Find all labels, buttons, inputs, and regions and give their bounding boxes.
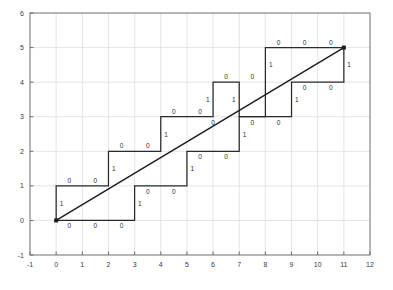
step-label: 1	[60, 200, 64, 207]
chart-plot: 1001001001010000100100010010011000 -1012…	[0, 0, 393, 290]
y-tick-label: -1	[18, 252, 24, 259]
y-tick-label: 4	[20, 79, 24, 86]
step-label: 1	[190, 165, 194, 172]
step-label: 0	[94, 222, 98, 229]
step-label: 0	[94, 177, 98, 184]
step-label: 0	[303, 39, 307, 46]
x-tick-label: 2	[107, 261, 111, 268]
y-tick-label: 3	[20, 113, 24, 120]
step-label: 0	[277, 119, 281, 126]
step-label: 0	[67, 177, 71, 184]
y-tick-label: 5	[20, 44, 24, 51]
x-tick-label: 11	[340, 261, 347, 268]
step-label: 0	[303, 84, 307, 91]
endpoint-marker	[342, 46, 346, 50]
chart-background	[0, 0, 393, 290]
step-label: 1	[243, 131, 247, 138]
x-tick-label: 9	[290, 261, 294, 268]
x-tick-label: 0	[54, 261, 58, 268]
step-label: 1	[295, 96, 299, 103]
step-label: 0	[224, 73, 228, 80]
step-label: 0	[172, 188, 176, 195]
step-label: 0	[277, 39, 281, 46]
x-tick-label: 12	[366, 261, 374, 268]
step-label: 0	[146, 142, 150, 149]
step-label: 0	[250, 73, 254, 80]
step-label: 1	[164, 131, 168, 138]
figure-container: 1001001001010000100100010010011000 -1012…	[0, 0, 393, 290]
step-label: 0	[120, 142, 124, 149]
step-label: 0	[211, 119, 215, 126]
step-label: 1	[347, 61, 351, 68]
step-label: 0	[329, 84, 333, 91]
x-tick-label: 5	[185, 261, 189, 268]
y-tick-label: 0	[20, 217, 24, 224]
step-label: 0	[198, 153, 202, 160]
x-tick-label: 3	[133, 261, 137, 268]
step-label: 0	[224, 153, 228, 160]
x-tick-label: 7	[237, 261, 241, 268]
y-tick-label: 1	[20, 182, 24, 189]
endpoint-marker	[54, 218, 58, 222]
x-tick-label: 10	[314, 261, 322, 268]
x-tick-label: 1	[80, 261, 84, 268]
step-label: 0	[172, 108, 176, 115]
x-tick-label: 6	[211, 261, 215, 268]
step-label: 0	[198, 108, 202, 115]
step-label: 0	[250, 119, 254, 126]
step-label: 0	[146, 188, 150, 195]
x-tick-label: -1	[27, 261, 33, 268]
step-label: 1	[112, 165, 116, 172]
step-label: 1	[138, 200, 142, 207]
step-label: 1	[269, 61, 273, 68]
x-tick-label: 4	[159, 261, 163, 268]
y-tick-label: 6	[20, 10, 24, 17]
y-tick-label: 2	[20, 148, 24, 155]
step-label: 0	[329, 39, 333, 46]
step-label: 1	[206, 96, 210, 103]
x-tick-label: 8	[263, 261, 267, 268]
step-label: 1	[232, 96, 236, 103]
step-label: 0	[67, 222, 71, 229]
step-label: 0	[120, 222, 124, 229]
